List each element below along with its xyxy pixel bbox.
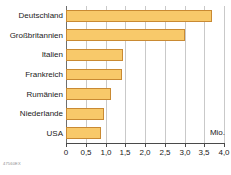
bar-row — [66, 10, 224, 22]
bar-row — [66, 69, 224, 81]
category-label: Niederlande — [0, 109, 63, 118]
category-label: USA — [0, 129, 63, 138]
bar-row — [66, 127, 224, 139]
bar — [66, 10, 212, 22]
bar — [66, 108, 104, 120]
x-tick-label: 2,0 — [139, 148, 150, 157]
bars — [66, 6, 224, 143]
category-label: Großbritannien — [0, 31, 63, 40]
bar-row — [66, 108, 224, 120]
x-tick-mark — [165, 144, 166, 147]
bar-row — [66, 49, 224, 61]
category-label: Frankreich — [0, 70, 63, 79]
x-tick-mark — [185, 144, 186, 147]
x-tick-label: 3,5 — [198, 148, 209, 157]
category-axis-labels: DeutschlandGroßbritannienItalienFrankrei… — [0, 6, 63, 143]
bar-chart: DeutschlandGroßbritannienItalienFrankrei… — [0, 0, 231, 175]
x-tick-mark — [106, 144, 107, 147]
source-code: 47560EX — [3, 161, 21, 166]
unit-label: Mio. — [210, 128, 225, 137]
x-tick-mark — [145, 144, 146, 147]
x-tick-label: 2,5 — [159, 148, 170, 157]
bar — [66, 29, 185, 41]
bar-row — [66, 88, 224, 100]
gridline-4-0 — [224, 6, 225, 143]
x-tick-mark — [66, 144, 67, 147]
x-tick-label: 0 — [64, 148, 68, 157]
x-tick-mark — [125, 144, 126, 147]
bar — [66, 49, 123, 61]
x-tick-mark — [86, 144, 87, 147]
x-tick-mark — [224, 144, 225, 147]
x-tick-label: 1,5 — [119, 148, 130, 157]
category-label: Rumänien — [0, 90, 63, 99]
category-label: Italien — [0, 50, 63, 59]
plot-area — [66, 6, 224, 143]
x-tick-mark — [204, 144, 205, 147]
x-tick-label: 1,0 — [100, 148, 111, 157]
bar-row — [66, 29, 224, 41]
bar — [66, 69, 122, 81]
category-label: Deutschland — [0, 11, 63, 20]
x-tick-label: 0,5 — [80, 148, 91, 157]
bar — [66, 127, 101, 139]
x-tick-label: 4,0 — [218, 148, 229, 157]
bar — [66, 88, 111, 100]
x-tick-label: 3,0 — [179, 148, 190, 157]
